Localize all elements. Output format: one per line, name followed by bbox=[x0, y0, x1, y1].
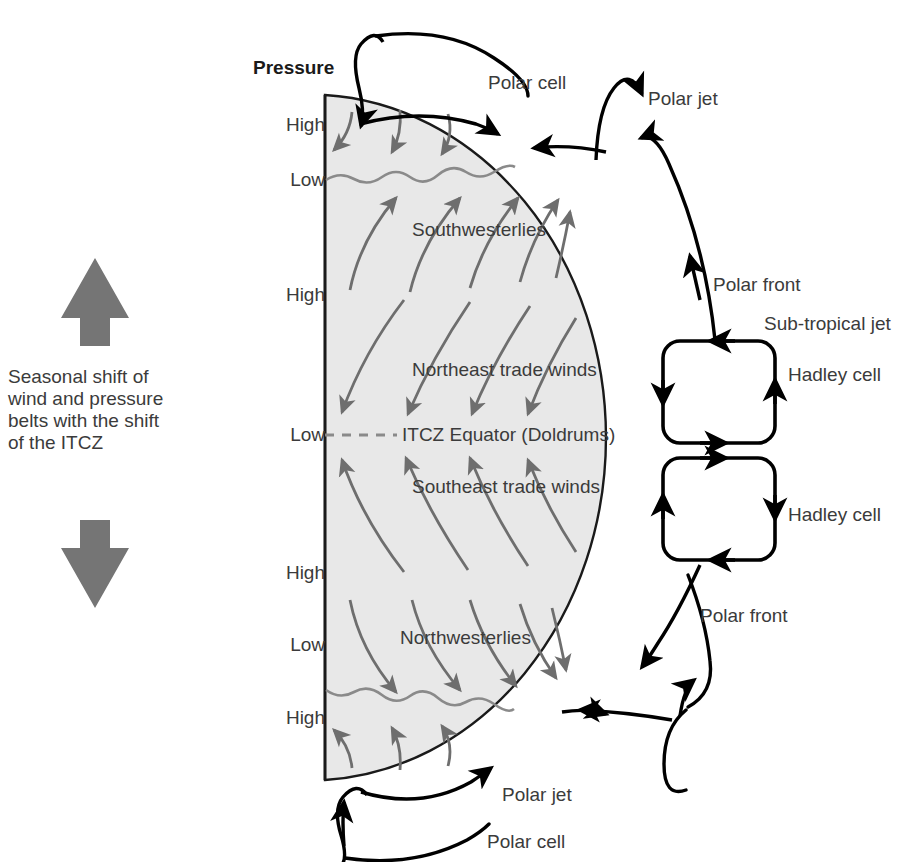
pressure-label-high-subtropical-south: High bbox=[245, 562, 325, 584]
pressure-label-high-subtropical-north: High bbox=[245, 284, 325, 306]
polar-front-inflow-south bbox=[580, 710, 672, 720]
pressure-label-low-equatorial: Low bbox=[245, 424, 325, 446]
label-hadley-cell-upper: Hadley cell bbox=[788, 364, 881, 386]
polar-cell-loop-south bbox=[337, 768, 491, 862]
hadley-cell-upper bbox=[663, 341, 775, 443]
label-polar-jet-north: Polar jet bbox=[648, 88, 718, 110]
wind-label-northwesterlies: Northwesterlies bbox=[400, 627, 531, 649]
label-polar-cell-north: Polar cell bbox=[488, 72, 566, 94]
polar-jet-south bbox=[562, 680, 694, 792]
wind-label-southeast-trade-winds: Southeast trade winds bbox=[412, 476, 600, 498]
seasonal-shift-note: Seasonal shift of wind and pressure belt… bbox=[8, 366, 176, 454]
polar-front-south bbox=[642, 565, 711, 707]
seasonal-shift-down-arrow bbox=[61, 520, 129, 608]
seasonal-shift-up-arrow bbox=[61, 258, 129, 346]
label-sub-tropical-jet: Sub-tropical jet bbox=[764, 313, 891, 335]
pressure-heading: Pressure bbox=[253, 57, 334, 79]
label-polar-front-north: Polar front bbox=[713, 274, 801, 296]
pressure-label-low-subpolar-south: Low bbox=[245, 634, 325, 656]
label-polar-front-south: Polar front bbox=[700, 605, 788, 627]
pressure-label-low-subpolar-north: Low bbox=[245, 169, 325, 191]
hadley-cell-lower bbox=[663, 458, 775, 560]
wind-pressure-belts-diagram: Pressure High Low High Low High Low High… bbox=[0, 0, 904, 862]
polar-front-north bbox=[641, 137, 715, 340]
wind-label-itcz-equator-doldrums: ITCZ Equator (Doldrums) bbox=[402, 424, 615, 446]
label-hadley-cell-lower: Hadley cell bbox=[788, 504, 881, 526]
pressure-label-high-polar-south: High bbox=[245, 707, 325, 729]
label-polar-jet-south: Polar jet bbox=[502, 784, 572, 806]
wind-label-northeast-trade-winds: Northeast trade winds bbox=[412, 359, 597, 381]
label-polar-cell-south: Polar cell bbox=[487, 831, 565, 853]
pressure-label-high-polar-north: High bbox=[245, 114, 325, 136]
polar-front-north-arrowhead bbox=[690, 256, 700, 300]
wind-label-southwesterlies: Southwesterlies bbox=[412, 219, 546, 241]
polar-jet-north bbox=[596, 79, 642, 160]
